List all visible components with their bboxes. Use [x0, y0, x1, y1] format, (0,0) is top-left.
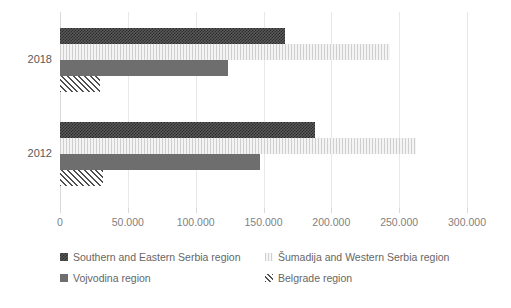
axis-tick	[60, 208, 61, 213]
axis-tick	[128, 208, 129, 213]
axis-tick	[399, 208, 400, 213]
axis-tick-label: 200.000	[312, 216, 350, 228]
bar[interactable]	[60, 154, 260, 170]
axis-tick	[196, 208, 197, 213]
legend-swatch-icon	[60, 274, 68, 282]
axis-tick-label: 50.000	[112, 216, 144, 228]
bar[interactable]	[60, 44, 390, 60]
bar[interactable]	[60, 76, 100, 92]
category-label-2018: 2018	[0, 53, 52, 65]
gridline	[331, 12, 332, 208]
gridline	[467, 12, 468, 208]
bar[interactable]	[60, 138, 416, 154]
bar-chart: 050.000100.000150.000200.000250.000300.0…	[0, 0, 511, 308]
bar[interactable]	[60, 60, 228, 76]
category-label-2012: 2012	[0, 147, 52, 159]
axis-tick-label: 100.000	[177, 216, 215, 228]
legend-swatch-icon	[265, 253, 273, 261]
legend-swatch-icon	[265, 274, 273, 282]
legend-item-vojvodina[interactable]: Vojvodina region	[60, 272, 265, 284]
legend-label: Belgrade region	[278, 272, 352, 284]
legend-item-sumadija-western-serbia[interactable]: Šumadija and Western Serbia region	[265, 251, 500, 263]
chart-legend: Southern and Eastern Serbia region Šumad…	[60, 246, 500, 288]
axis-tick-label: 250.000	[380, 216, 418, 228]
legend-label: Šumadija and Western Serbia region	[278, 251, 449, 263]
bar[interactable]	[60, 28, 285, 44]
legend-row: Southern and Eastern Serbia region Šumad…	[60, 246, 500, 267]
legend-row: Vojvodina region Belgrade region	[60, 267, 500, 288]
axis-tick	[467, 208, 468, 213]
axis-tick-label: 300.000	[448, 216, 486, 228]
axis-tick-label: 150.000	[245, 216, 283, 228]
legend-item-belgrade[interactable]: Belgrade region	[265, 272, 500, 284]
legend-label: Southern and Eastern Serbia region	[73, 251, 241, 263]
legend-item-southern-eastern-serbia[interactable]: Southern and Eastern Serbia region	[60, 251, 265, 263]
plot-area: 050.000100.000150.000200.000250.000300.0…	[60, 12, 467, 208]
bar[interactable]	[60, 170, 103, 186]
legend-swatch-icon	[60, 253, 68, 261]
axis-tick-label: 0	[57, 216, 63, 228]
axis-tick	[264, 208, 265, 213]
legend-label: Vojvodina region	[73, 272, 151, 284]
axis-tick	[331, 208, 332, 213]
gridline	[399, 12, 400, 208]
bar[interactable]	[60, 122, 315, 138]
